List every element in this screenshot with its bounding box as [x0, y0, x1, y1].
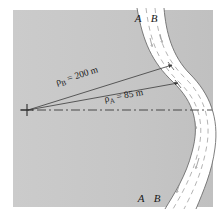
- lane-label-a-bottom: A: [137, 192, 145, 204]
- figure-container: ρB = 200 m ρA = 85 m A B A B: [0, 0, 223, 218]
- lane-label-a-top: A: [134, 12, 142, 24]
- road-curvature-figure: ρB = 200 m ρA = 85 m A B A B: [0, 0, 223, 218]
- lane-label-b-top: B: [151, 12, 158, 24]
- lane-label-b-bottom: B: [154, 192, 161, 204]
